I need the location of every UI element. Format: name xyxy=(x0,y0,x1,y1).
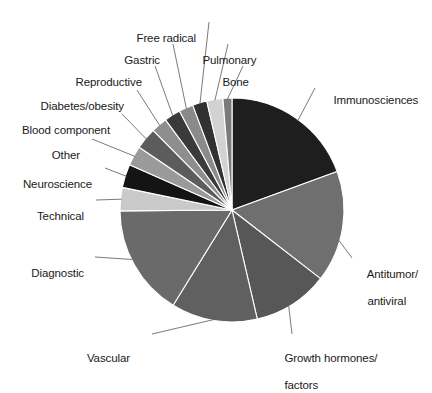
leader-line xyxy=(95,257,133,260)
slice-label-free-radical: Free radical xyxy=(124,18,196,59)
leader-line xyxy=(122,114,147,139)
slice-label-diagnostic: Diagnostic xyxy=(19,253,84,294)
pie-slices-group xyxy=(120,98,344,322)
leader-line xyxy=(298,88,315,121)
slice-label-growth-line1: Growth hormones/ xyxy=(284,352,377,364)
slice-label-immunosciences-text: Immunosciences xyxy=(333,94,418,106)
slice-label-vascular-text: Vascular xyxy=(87,352,130,364)
slice-label-vascular: Vascular xyxy=(75,338,130,379)
slice-label-antitumor-line2: antiviral xyxy=(367,295,406,307)
slice-label-diagnostic-text: Diagnostic xyxy=(31,267,84,279)
slice-label-antitumor-line1: Antitumor/ xyxy=(367,268,418,280)
slice-label-bone-text: Bone xyxy=(222,76,248,88)
slice-label-growth-hormones-factors: Growth hormones/ factors xyxy=(272,338,377,393)
slice-label-bone: Bone xyxy=(210,62,249,103)
slice-label-immunosciences: Immunosciences xyxy=(321,80,418,121)
slice-label-technical-text: Technical xyxy=(37,210,84,222)
slice-label-free-radical-text: Free radical xyxy=(136,32,196,44)
leader-line xyxy=(289,305,292,334)
slice-label-growth-line2: factors xyxy=(284,379,318,391)
leader-line xyxy=(152,320,214,334)
slice-label-neuroscience-text: Neuroscience xyxy=(23,178,92,190)
slice-label-antitumor-antiviral: Antitumor/ antiviral xyxy=(355,254,418,322)
leader-line xyxy=(96,199,122,200)
leader-line xyxy=(105,168,126,176)
leader-line xyxy=(339,240,352,258)
